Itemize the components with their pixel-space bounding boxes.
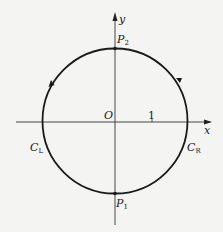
x-axis-label: x <box>204 125 210 136</box>
x-axis <box>16 120 212 125</box>
point-p2-dot <box>113 47 117 51</box>
point-p1-dot <box>113 192 117 196</box>
contour-diagram: y x O 1 P2 P1 CL CR <box>0 0 223 232</box>
origin-label: O <box>104 110 113 121</box>
arc-cr-label: CR <box>187 142 201 155</box>
y-axis-arrow-icon <box>113 12 118 21</box>
y-axis-label: y <box>119 14 125 25</box>
tick-label-1: 1 <box>148 110 155 121</box>
point-p1-label: P1 <box>116 198 128 211</box>
arc-cl-label: CL <box>30 142 43 155</box>
point-p2-label: P2 <box>117 34 129 47</box>
